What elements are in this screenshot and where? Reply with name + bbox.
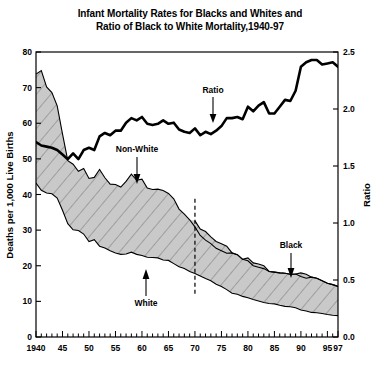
- y-axis-tick-labels: 01020304050607080: [23, 47, 33, 342]
- annotation-ratio: Ratio: [202, 85, 223, 123]
- tick-label: 70: [190, 343, 200, 353]
- y2-axis-title: Ratio: [361, 183, 372, 207]
- annotation-black-label: Black: [280, 240, 303, 250]
- tick-label: 10: [23, 296, 33, 306]
- annotation-black: Black: [280, 240, 303, 278]
- tick-label: 50: [84, 343, 94, 353]
- annotation-ratio-label: Ratio: [202, 85, 223, 95]
- tick-label: 2.0: [343, 104, 355, 114]
- tick-label: 0.0: [343, 332, 355, 342]
- tick-label: 0.5: [343, 275, 355, 285]
- tick-label: 0: [27, 332, 32, 342]
- annotation-white: White: [134, 269, 157, 308]
- tick-label: 30: [23, 225, 33, 235]
- arrow-down-icon: [210, 114, 217, 123]
- tick-label: 97: [333, 343, 343, 353]
- tick-label: 80: [23, 47, 33, 57]
- tick-label: 75: [217, 343, 227, 353]
- tick-label: 1.0: [343, 218, 355, 228]
- tick-label: 1940: [27, 343, 46, 353]
- annotation-white-label: White: [134, 298, 157, 308]
- tick-label: 1.5: [343, 161, 355, 171]
- tick-label: 90: [296, 343, 306, 353]
- tick-label: 60: [23, 118, 33, 128]
- tick-label: 95: [323, 343, 333, 353]
- y-axis-title: Deaths per 1,000 Live Births: [4, 131, 15, 258]
- tick-label: 60: [137, 343, 147, 353]
- tick-label: 45: [58, 343, 68, 353]
- arrow-up-icon: [143, 269, 150, 279]
- mortality-gap-band: [36, 71, 338, 316]
- tick-label: 65: [164, 343, 174, 353]
- x-axis-ticks: [36, 331, 338, 337]
- tick-label: 70: [23, 83, 33, 93]
- ratio-series-line: [36, 60, 338, 159]
- tick-label: 40: [23, 190, 33, 200]
- y2-axis-tick-labels: 0.00.51.01.52.02.5: [343, 47, 355, 342]
- tick-label: 50: [23, 154, 33, 164]
- chart-plot-area: 01020304050607080 0.00.51.01.52.02.5 194…: [0, 0, 380, 367]
- tick-label: 80: [243, 343, 253, 353]
- tick-label: 85: [270, 343, 280, 353]
- annotation-non-white: Non-White: [116, 144, 159, 184]
- infant-mortality-chart-figure: Infant Mortality Rates for Blacks and Wh…: [0, 0, 380, 367]
- tick-label: 20: [23, 261, 33, 271]
- annotation-non-white-label: Non-White: [116, 144, 159, 154]
- x-axis-tick-labels: 1940455055606570758085909597: [27, 343, 343, 353]
- tick-label: 2.5: [343, 47, 355, 57]
- tick-label: 55: [111, 343, 121, 353]
